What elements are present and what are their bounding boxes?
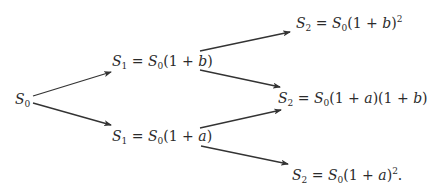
- node-s1-down: S1 = S0(1 + a): [112, 129, 212, 146]
- edge-s0-to-s1-up: [33, 72, 111, 96]
- node-s2-uu: S2 = S0(1 + b)2: [296, 15, 402, 33]
- node-s0: S0: [15, 92, 30, 109]
- edge-s1-down-to-s2-dd: [201, 146, 288, 164]
- node-s2-ud: S2 = S0(1 + a)(1 + b): [278, 91, 428, 108]
- edge-s1-down-to-s2-ud: [200, 110, 281, 128]
- edge-s1-up-to-s2-ud: [200, 70, 280, 87]
- edge-s1-up-to-s2-uu: [200, 32, 290, 51]
- node-s1-up: S1 = S0(1 + b): [112, 54, 213, 71]
- edge-s0-to-s1-down: [33, 103, 111, 125]
- node-s2-dd: S2 = S0(1 + a)2.: [292, 167, 402, 185]
